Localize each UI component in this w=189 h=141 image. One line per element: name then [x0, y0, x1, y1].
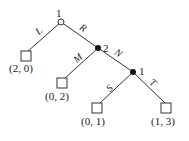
leaf-L-square: [21, 51, 31, 61]
leaf-T-square: [161, 103, 171, 113]
node-2-filled: [95, 45, 101, 51]
game-tree: L R M N S T 1 2 1 (2, 0) (0, 2) (0, 1) (…: [0, 0, 189, 141]
payoff-S: (0, 1): [81, 115, 105, 128]
edge-L: [27, 22, 61, 52]
leaf-S-square: [92, 103, 102, 113]
edge-S: [99, 72, 133, 104]
root-node-hollow: [58, 19, 64, 25]
payoff-T: (1, 3): [151, 115, 175, 128]
root-player-label: 1: [56, 7, 62, 19]
edge-R: [61, 22, 98, 48]
payoff-M: (0, 2): [45, 90, 69, 103]
leaf-M-square: [57, 78, 67, 88]
edge-M: [64, 48, 98, 79]
edge-label-S: S: [104, 82, 115, 93]
edge-T: [133, 72, 166, 104]
node-3-filled: [130, 69, 136, 75]
edge-label-M: M: [70, 51, 85, 66]
edge-label-R: R: [77, 21, 89, 34]
node-3-player-label: 1: [139, 65, 145, 77]
node-2-player-label: 2: [103, 42, 109, 54]
edge-label-N: N: [112, 46, 126, 60]
edge-label-L: L: [32, 24, 44, 37]
payoff-L: (2, 0): [9, 62, 33, 75]
